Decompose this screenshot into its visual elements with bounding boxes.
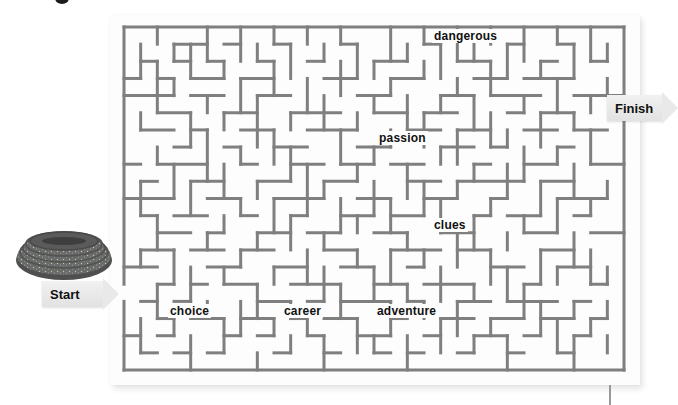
start-arrow: Start <box>42 281 119 307</box>
maze-word-career: career <box>282 304 323 318</box>
maze-word-adventure: adventure <box>375 304 438 318</box>
finish-label: Finish <box>607 95 663 121</box>
coiled-rope-icon <box>14 222 114 284</box>
finish-arrow: Finish <box>607 95 678 121</box>
maze-word-choice: choice <box>168 304 211 318</box>
arrow-tip-icon <box>103 278 119 310</box>
maze-word-clues: clues <box>432 218 468 232</box>
arrow-tip-icon <box>662 92 678 124</box>
start-label: Start <box>42 281 104 307</box>
maze-word-passion: passion <box>377 131 428 145</box>
maze-word-dangerous: dangerous <box>432 29 499 43</box>
